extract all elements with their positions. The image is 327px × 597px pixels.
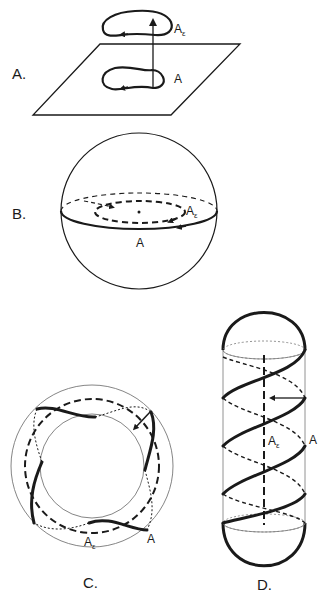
loop-a-epsilon-arrow <box>122 34 128 35</box>
panel-a: A. Aε A <box>12 11 240 115</box>
helix-a <box>223 350 305 523</box>
label-a: A <box>174 72 182 86</box>
panel-b: B. Aε A <box>12 133 217 289</box>
panel-d: Aε A D. <box>223 313 317 594</box>
loop-a <box>32 408 154 530</box>
label-a-epsilon: Aε <box>268 434 280 450</box>
panel-c-label: C. <box>83 574 98 591</box>
label-a-epsilon: Aε <box>84 535 96 551</box>
panel-d-label: D. <box>257 576 272 593</box>
center-point <box>138 211 141 214</box>
panel-b-label: B. <box>12 205 26 222</box>
label-a-epsilon: Aε <box>174 22 186 38</box>
loop-a <box>103 67 164 89</box>
plane <box>33 44 240 115</box>
figure-canvas: A. Aε A B. Aε A <box>0 0 327 597</box>
label-a-epsilon: Aε <box>186 204 198 220</box>
label-a: A <box>309 433 317 447</box>
label-a: A <box>147 532 155 546</box>
loop-a-epsilon <box>103 11 172 36</box>
label-a: A <box>136 236 144 250</box>
loop-a-epsilon <box>25 399 159 533</box>
displacement-arrow <box>135 411 151 428</box>
top-cap-dome <box>223 313 305 351</box>
panel-c: Aε A C. <box>11 385 173 591</box>
loop-a-back <box>34 407 152 530</box>
panel-a-label: A. <box>12 65 26 82</box>
annulus-inner <box>40 414 144 518</box>
